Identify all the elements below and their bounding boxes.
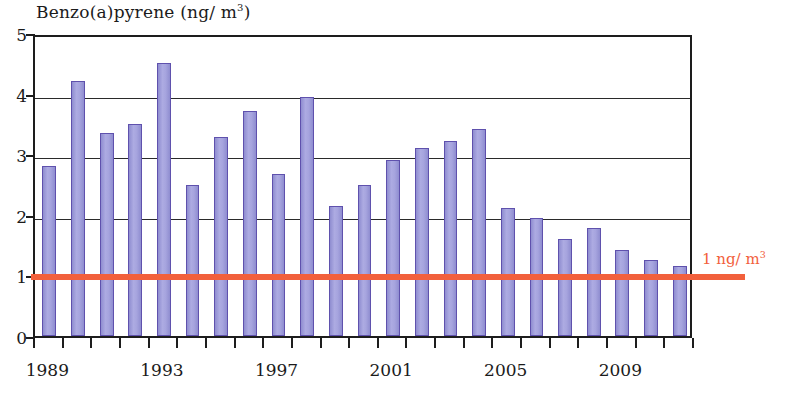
x-tick-label-2001: 2001: [370, 360, 413, 380]
x-tick-mark-7: [234, 338, 236, 348]
x-tick-mark-5: [176, 338, 178, 348]
threshold-line: [31, 274, 745, 280]
x-tick-mark-12: [377, 338, 379, 348]
x-tick-label-1989: 1989: [26, 360, 69, 380]
x-tick-mark-18: [549, 338, 551, 348]
x-tick-mark-20: [606, 338, 608, 348]
x-tick-mark-17: [520, 338, 522, 348]
x-axis: 198919931997200120052009: [0, 0, 795, 397]
x-tick-mark-4: [148, 338, 150, 348]
x-tick-mark-13: [405, 338, 407, 348]
x-tick-label-2005: 2005: [484, 360, 527, 380]
x-tick-mark-0: [33, 338, 35, 348]
x-tick-mark-3: [119, 338, 121, 348]
chart-figure: Benzo(a)pyrene (ng/ m3) 543210 1 ng/ m3 …: [0, 0, 795, 397]
x-tick-mark-16: [491, 338, 493, 348]
x-tick-mark-8: [262, 338, 264, 348]
x-tick-mark-14: [434, 338, 436, 348]
x-tick-mark-15: [463, 338, 465, 348]
x-tick-mark-11: [348, 338, 350, 348]
x-tick-mark-6: [205, 338, 207, 348]
x-tick-mark-19: [577, 338, 579, 348]
x-tick-mark-2: [90, 338, 92, 348]
x-tick-label-2009: 2009: [599, 360, 642, 380]
x-tick-mark-22: [663, 338, 665, 348]
x-tick-label-1993: 1993: [140, 360, 183, 380]
x-tick-mark-1: [62, 338, 64, 348]
x-tick-mark-23: [692, 338, 694, 348]
x-tick-mark-10: [320, 338, 322, 348]
x-tick-mark-9: [291, 338, 293, 348]
x-tick-label-1997: 1997: [255, 360, 298, 380]
x-tick-mark-21: [635, 338, 637, 348]
